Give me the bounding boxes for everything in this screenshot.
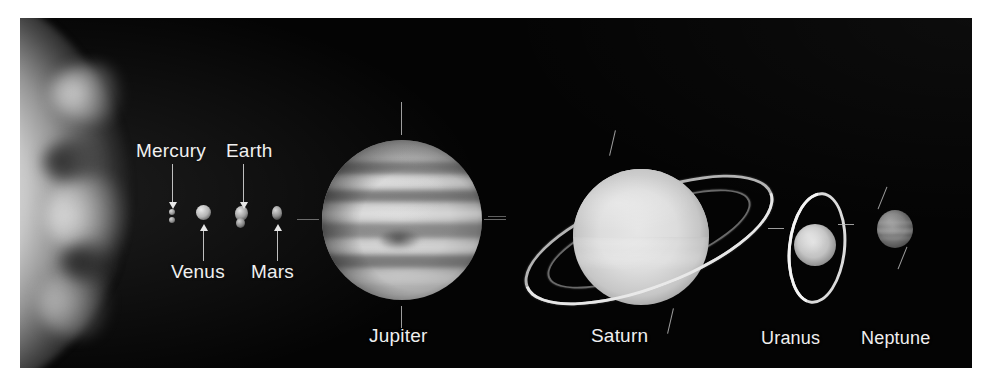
uranus-equator-tick-right [838,224,854,225]
label-venus: Venus [171,261,225,283]
label-jupiter: Jupiter [369,325,427,347]
label-uranus: Uranus [761,328,820,349]
neptune-band [877,229,913,233]
jupiter-terminator [322,140,482,300]
label-saturn: Saturn [591,325,648,347]
planet-mercury [169,209,175,215]
planet-mars [272,206,282,220]
jupiter-equator-tick-right [484,219,506,220]
planet-jupiter [322,140,482,300]
planet-venus [196,205,211,220]
page-margin-bottom [0,368,986,382]
sun-limb-detail [50,64,136,122]
jupiter-axis-tick-top [401,102,402,135]
planet-neptune [877,210,913,248]
label-neptune: Neptune [861,328,930,349]
planet-earth-moon [236,218,245,228]
neptune-band [877,221,913,224]
neptune-axis-tick-top [878,187,888,210]
figure-page: Mercury Earth Venus Mars Jupiter Saturn … [0,0,986,382]
saturn-axis-tick-top [609,130,616,156]
photographic-plate: Mercury Earth Venus Mars Jupiter Saturn … [20,18,972,368]
label-mercury: Mercury [136,140,206,162]
planet-mercury-lower [169,217,175,223]
uranus-equator-tick-left [768,228,784,229]
saturn-equator-tick-left [488,216,506,217]
neptune-band [877,237,913,240]
neptune-axis-tick-bottom [898,247,908,270]
sun-limb-detail [60,240,124,284]
label-earth: Earth [226,140,272,162]
uranus-system [776,186,846,306]
saturn-system [515,154,780,319]
jupiter-equator-tick-left [297,219,319,220]
label-mars: Mars [251,261,294,283]
